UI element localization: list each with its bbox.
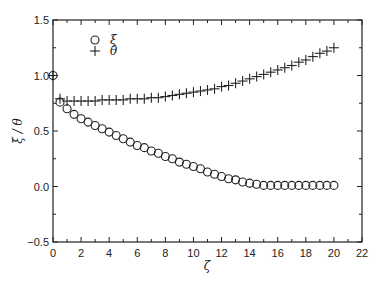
x-tick-label: 16 (272, 247, 284, 259)
theta-point (259, 69, 269, 79)
x-tick-label: 2 (78, 247, 84, 259)
theta-point (153, 93, 163, 103)
x-tick-label: 6 (134, 247, 140, 259)
theta-point (238, 76, 248, 86)
y-tick-label: 1.5 (34, 14, 49, 26)
theta-point (181, 88, 191, 98)
theta-point (174, 89, 184, 99)
theta-point (167, 90, 177, 100)
chart-canvas: 0246810121416182022 −0.50.00.51.01.5 ξ θ… (0, 0, 385, 287)
series-theta-markers (48, 43, 339, 106)
y-tick-label: 0.0 (34, 181, 49, 193)
x-tick-label: 10 (187, 247, 199, 259)
y-tick-label: −0.5 (27, 236, 49, 248)
x-tick-label: 4 (106, 247, 112, 259)
x-tick-label: 12 (215, 247, 227, 259)
theta-point (195, 86, 205, 96)
x-tick-label: 20 (328, 247, 340, 259)
theta-point (273, 65, 283, 75)
y-axis-label: ξ / θ (11, 117, 25, 143)
x-tick-label: 22 (356, 247, 368, 259)
theta-point (224, 80, 234, 90)
y-tick-label: 1.0 (34, 70, 49, 82)
theta-point (245, 74, 255, 84)
theta-point (48, 71, 58, 81)
x-tick-label: 0 (50, 247, 56, 259)
legend-plus-icon (90, 46, 100, 56)
x-tick-label: 14 (244, 247, 256, 259)
x-axis-label: ζ (204, 259, 212, 273)
legend: ξ θ (90, 33, 118, 58)
theta-point (252, 72, 262, 82)
theta-point (118, 95, 128, 105)
theta-point (210, 84, 220, 94)
theta-point (139, 94, 149, 104)
y-axis-ticks: −0.50.00.51.01.5 (27, 14, 362, 248)
theta-point (188, 87, 198, 97)
theta-point (203, 85, 213, 95)
y-tick-label: 0.5 (34, 125, 49, 137)
theta-point (231, 78, 241, 88)
theta-point (217, 82, 227, 92)
legend-circle-icon (91, 36, 99, 44)
theta-point (266, 67, 276, 77)
theta-point (160, 92, 170, 102)
x-tick-label: 8 (162, 247, 168, 259)
legend-label-theta: θ (110, 44, 118, 58)
x-tick-label: 18 (300, 247, 312, 259)
theta-point (90, 96, 100, 106)
theta-point (280, 63, 290, 73)
